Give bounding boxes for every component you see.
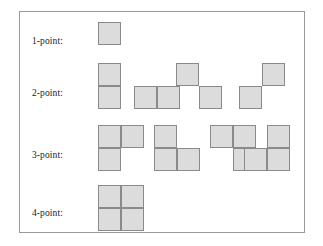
grid-cell <box>98 86 121 109</box>
grid-cell <box>98 185 121 208</box>
grid-cell <box>98 22 121 45</box>
grid-cell <box>177 148 200 171</box>
figure-frame: 1-point:2-point:3-point:4-point: <box>19 11 305 233</box>
grid-cell <box>154 148 177 171</box>
grid-cell <box>176 63 199 86</box>
grid-cell <box>239 86 262 109</box>
grid-cell <box>267 125 290 148</box>
grid-cell <box>154 125 177 148</box>
grid-cell <box>199 86 222 109</box>
grid-cell <box>233 125 256 148</box>
row-label: 3-point: <box>32 150 102 160</box>
grid-cell <box>157 86 180 109</box>
grid-cell <box>121 185 144 208</box>
grid-cell <box>98 125 121 148</box>
grid-cell <box>98 148 121 171</box>
grid-cell <box>244 148 267 171</box>
row-label: 1-point: <box>32 36 102 46</box>
grid-cell <box>267 148 290 171</box>
grid-cell <box>121 125 144 148</box>
grid-cell <box>262 63 285 86</box>
grid-cell <box>134 86 157 109</box>
grid-cell <box>210 125 233 148</box>
row-label: 2-point: <box>32 88 102 98</box>
grid-cell <box>121 208 144 231</box>
grid-cell <box>98 63 121 86</box>
grid-cell <box>98 208 121 231</box>
row-label: 4-point: <box>32 208 102 218</box>
